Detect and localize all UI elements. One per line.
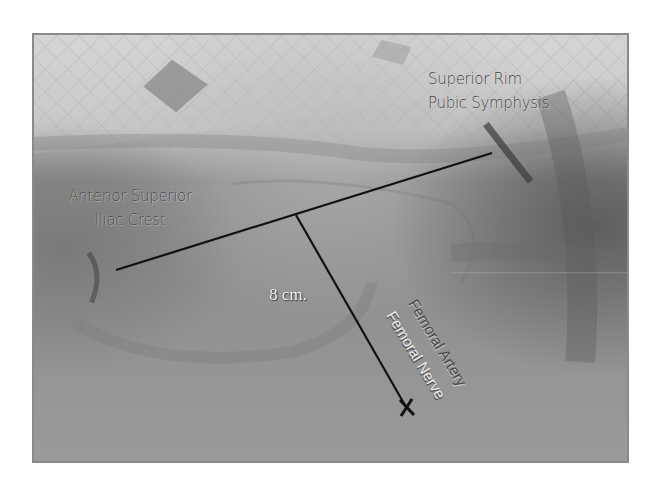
- pubic-symphysis-label: Superior Rim Pubic Symphysis: [428, 70, 549, 113]
- asis-label-line2: Iliac Crest: [48, 211, 212, 230]
- pubic-label-line2: Pubic Symphysis: [428, 94, 549, 113]
- asis-label-line1: Anterior Superior: [48, 187, 212, 206]
- distance-measurement-label: 8 cm.: [269, 285, 307, 305]
- figure-canvas: Anterior Superior Iliac Crest Superior R…: [0, 0, 660, 477]
- pubic-label-line1: Superior Rim: [428, 70, 549, 89]
- asis-label: Anterior Superior Iliac Crest: [48, 187, 212, 230]
